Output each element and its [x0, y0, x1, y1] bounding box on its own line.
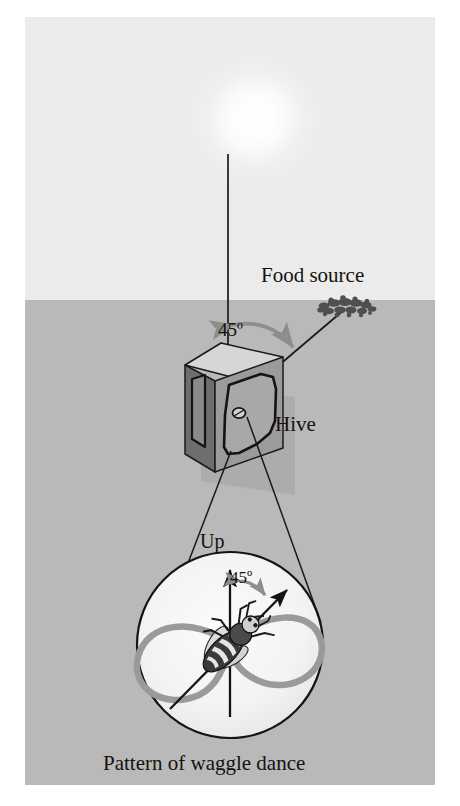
up-label: Up [200, 531, 224, 551]
figure-root: Food source Hive Up Pattern of waggle da… [0, 0, 460, 806]
figure-plate: Food source Hive Up Pattern of waggle da… [25, 17, 435, 785]
food-cluster-icon [317, 295, 376, 317]
field-angle-label: 45º [218, 320, 243, 339]
food-source-label: Food source [261, 265, 364, 286]
hive-to-food-line [278, 309, 345, 366]
figure-caption: Pattern of waggle dance [103, 753, 305, 774]
dance-angle-label: 45º [230, 569, 252, 586]
hive-label: Hive [275, 414, 316, 435]
diagram-vector-layer [25, 17, 435, 785]
